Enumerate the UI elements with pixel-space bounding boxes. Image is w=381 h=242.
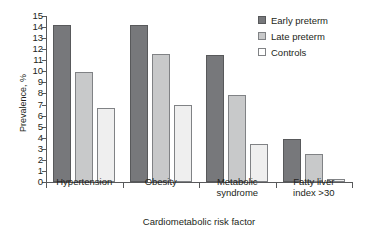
y-axis-label: Prevalence, % <box>18 28 28 178</box>
legend-swatch-icon <box>258 48 266 56</box>
legend-item-late[interactable]: Late preterm <box>258 28 328 44</box>
y-axis-tick-label: 10 <box>32 67 43 77</box>
y-axis-tick-label: 14 <box>32 22 43 32</box>
bar-early-1 <box>130 25 148 182</box>
y-axis-tick-label: 13 <box>32 33 43 43</box>
category-label-line: Hypertension <box>46 176 123 187</box>
bar-late-2 <box>228 95 246 182</box>
chart-legend: Early pretermLate pretermControls <box>258 12 328 60</box>
bar-control-1 <box>174 105 192 182</box>
category-label-line: syndrome <box>199 187 276 198</box>
legend-item-control[interactable]: Controls <box>258 44 328 60</box>
x-axis-label: Cardiometabolic risk factor <box>46 216 352 227</box>
y-axis-line <box>46 16 47 183</box>
y-axis-tick-label: 1 <box>38 166 43 176</box>
y-axis-tick-label: 0 <box>38 177 43 187</box>
x-axis-category-label: Hypertension <box>46 176 123 187</box>
y-axis-tick-label: 12 <box>32 44 43 54</box>
y-axis-tick-label: 9 <box>38 78 43 88</box>
bar-late-1 <box>152 54 170 182</box>
category-label-line: Metabolic <box>199 176 276 187</box>
y-axis-tick-label: 5 <box>38 122 43 132</box>
y-axis-tick-label: 3 <box>38 144 43 154</box>
legend-swatch-icon <box>258 32 266 40</box>
y-axis-tick-label: 4 <box>38 133 43 143</box>
legend-item-label: Controls <box>271 47 306 58</box>
bar-early-0 <box>53 25 71 182</box>
x-axis-category-label: Metabolicsyndrome <box>199 176 276 198</box>
x-axis-category-label: Obesity <box>123 176 200 187</box>
y-axis-tick-label: 15 <box>32 11 43 21</box>
category-label-line: Fatty liver <box>276 176 353 187</box>
bar-chart: Prevalence, % 0123456789101112131415 Hyp… <box>0 0 381 242</box>
category-label-line: index >30 <box>276 187 353 198</box>
x-axis-tick <box>352 183 353 188</box>
category-label-line: Obesity <box>123 176 200 187</box>
bar-control-0 <box>97 108 115 182</box>
bar-early-2 <box>206 55 224 182</box>
y-axis-tick-label: 7 <box>38 100 43 110</box>
y-axis-tick-label: 8 <box>38 89 43 99</box>
legend-item-label: Early preterm <box>271 15 328 26</box>
legend-item-early[interactable]: Early preterm <box>258 12 328 28</box>
y-axis-tick-label: 6 <box>38 111 43 121</box>
y-axis-tick-label: 11 <box>33 56 43 66</box>
legend-item-label: Late preterm <box>271 31 325 42</box>
y-axis-tick-label: 2 <box>38 155 43 165</box>
legend-swatch-icon <box>258 16 266 24</box>
bar-late-0 <box>75 72 93 182</box>
x-axis-category-label: Fatty liverindex >30 <box>276 176 353 198</box>
